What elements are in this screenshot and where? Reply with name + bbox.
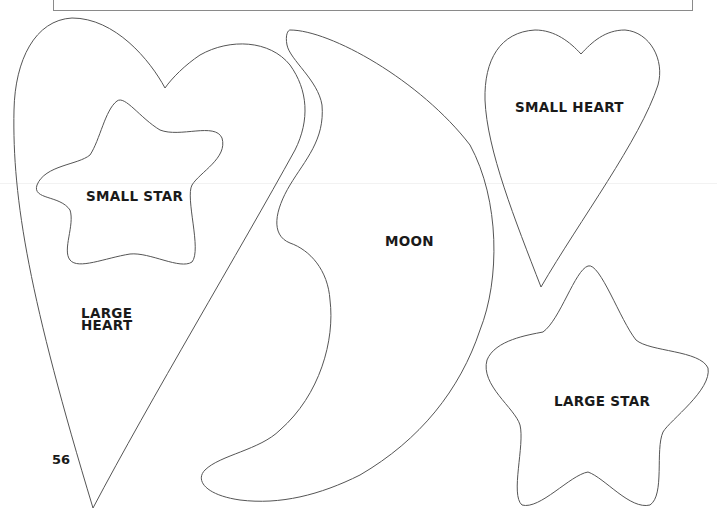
large-star-outline [486,266,708,506]
moon-label: MOON [385,235,434,247]
small-star-outline [36,100,222,264]
template-shapes [0,0,717,519]
small-heart-label: SMALL HEART [515,101,624,113]
large-heart-label: LARGE HEART [81,307,132,331]
page-number: 56 [52,452,70,467]
small-star-label: SMALL STAR [86,190,183,202]
small-heart-outline [485,30,660,287]
large-star-label: LARGE STAR [554,395,650,407]
large-heart-outline [14,18,305,508]
moon-outline [201,30,494,501]
